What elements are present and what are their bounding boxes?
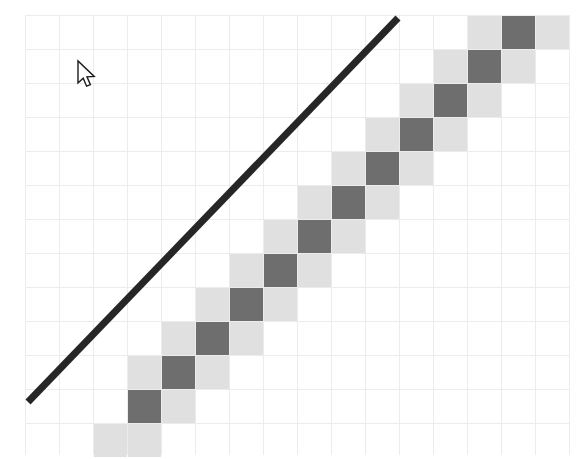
diagonal-reference-line: [28, 18, 398, 402]
